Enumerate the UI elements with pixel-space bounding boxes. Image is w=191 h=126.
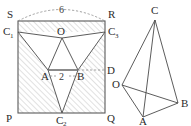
edge-c-b: [155, 20, 178, 103]
edge-o-a-right: [122, 85, 143, 117]
label-point-d: D: [107, 64, 115, 76]
label-point-c1-subscript: 1: [10, 32, 14, 40]
label-corner-s: S: [7, 8, 13, 20]
edge-a-b-right: [143, 103, 178, 117]
tetrahedron-right: [122, 20, 178, 117]
edge-c-a: [143, 20, 155, 117]
label-point-c2: C 2: [56, 114, 67, 126]
edge-o-b-right: [122, 85, 178, 103]
geometry-figure: S R P Q C 1 C 3 C 2 O A B D 6 2: [0, 0, 191, 126]
label-vertex-a-right: A: [139, 115, 147, 126]
label-point-b-left: B: [77, 70, 84, 82]
label-vertex-o-right: O: [112, 78, 120, 90]
label-measure-2: 2: [59, 71, 64, 82]
label-point-c1: C 1: [3, 25, 14, 40]
label-point-a-left: A: [41, 70, 49, 82]
edge-c-o: [122, 20, 155, 85]
label-point-o-left: O: [57, 25, 65, 37]
label-vertex-b-right: B: [181, 97, 188, 109]
label-vertex-c-right: C: [151, 4, 158, 16]
label-point-c3: C 3: [108, 25, 119, 40]
figure-container: S R P Q C 1 C 3 C 2 O A B D 6 2: [0, 0, 191, 126]
label-measure-6: 6: [59, 4, 64, 15]
label-corner-p: P: [6, 112, 12, 124]
label-point-c2-subscript: 2: [63, 120, 67, 126]
label-corner-r: R: [108, 8, 116, 20]
label-point-c3-subscript: 3: [115, 32, 119, 40]
label-corner-q: Q: [107, 112, 115, 124]
